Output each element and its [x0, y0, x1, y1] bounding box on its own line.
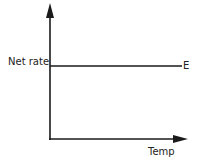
rate-diagram: [0, 0, 200, 162]
y-axis-arrow-icon: [46, 3, 54, 18]
series-label-e: E: [183, 61, 189, 71]
x-axis: [49, 135, 188, 143]
y-axis-label: Net rate: [8, 57, 49, 67]
x-axis-arrow-icon: [173, 135, 188, 143]
y-axis: [46, 3, 54, 140]
x-axis-label: Temp: [148, 147, 175, 157]
